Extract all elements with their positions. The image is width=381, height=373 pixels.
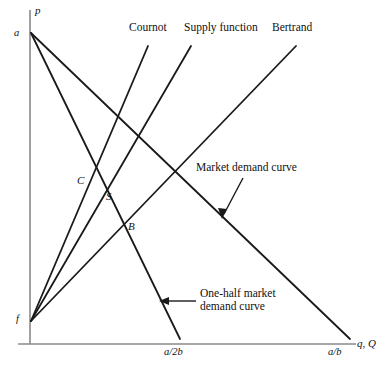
bertrand-point-label: B [128, 220, 135, 232]
one-half-demand-annotation-line2: demand curve [200, 300, 276, 313]
cournot-curve-label: Cournot [129, 21, 167, 34]
one-half-market-demand-curve [31, 33, 180, 339]
quantity-axis-label: q, Q [357, 337, 376, 349]
economics-diagram: p q, Q a f a/2b a/b Cournot Supply funct… [0, 0, 381, 373]
fixed-cost-label: f [16, 313, 19, 325]
cournot-point-label: C [77, 174, 84, 186]
market-demand-quantity-label: a/b [328, 346, 341, 358]
half-demand-quantity-label: a/2b [164, 346, 183, 358]
price-axis-label: p [35, 4, 41, 16]
supply-function-curve-label: Supply function [184, 21, 258, 34]
bertrand-line [31, 46, 296, 321]
one-half-demand-annotation: One-half market demand curve [200, 287, 276, 313]
price-intercept-label: a [14, 27, 19, 39]
market-demand-leader-line [224, 178, 243, 214]
bertrand-curve-label: Bertrand [272, 21, 312, 34]
diagram-canvas [0, 0, 381, 373]
cournot-line [31, 46, 148, 321]
supply-function-line [31, 46, 191, 321]
one-half-demand-annotation-line1: One-half market [200, 287, 276, 300]
market-demand-annotation: Market demand curve [196, 161, 297, 174]
supply-function-point-label: S [106, 190, 112, 202]
